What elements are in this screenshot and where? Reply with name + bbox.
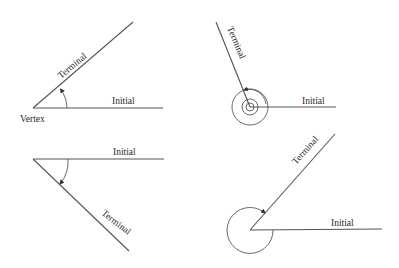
- initial-label: Initial: [331, 218, 354, 228]
- terminal-label: Terminal: [225, 25, 248, 61]
- initial-label: Initial: [113, 147, 136, 157]
- initial-side: [250, 229, 382, 230]
- panel-negative-acute: Initial Terminal: [33, 147, 164, 251]
- initial-label: Initial: [302, 96, 325, 106]
- initial-label: Initial: [112, 96, 135, 106]
- vertex-label: Vertex: [20, 114, 45, 124]
- rotation-arrow: [244, 89, 266, 104]
- rotation-arrow: [61, 89, 68, 108]
- terminal-side: [250, 134, 335, 230]
- terminal-label: Terminal: [56, 51, 89, 81]
- angle-diagram: Initial Terminal Vertex Initial Terminal…: [0, 0, 399, 268]
- panel-positive-multi-rotation: Initial Terminal: [216, 22, 336, 125]
- rotation-arrow: [60, 159, 68, 184]
- terminal-side: [33, 159, 129, 251]
- terminal-label: Terminal: [100, 208, 133, 237]
- terminal-label: Terminal: [290, 134, 321, 166]
- panel-negative-reflex: Initial Terminal: [227, 134, 382, 253]
- panel-positive-acute: Initial Terminal Vertex: [20, 22, 163, 124]
